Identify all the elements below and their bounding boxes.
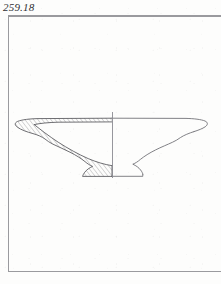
vessel-section-left xyxy=(15,118,112,176)
scanned-page: 259.18 xyxy=(0,0,221,284)
plate-border-frame xyxy=(8,16,221,272)
pottery-profile-drawing xyxy=(0,0,221,284)
vessel-outline-right xyxy=(112,118,207,176)
section-hatch-fill xyxy=(15,118,112,176)
